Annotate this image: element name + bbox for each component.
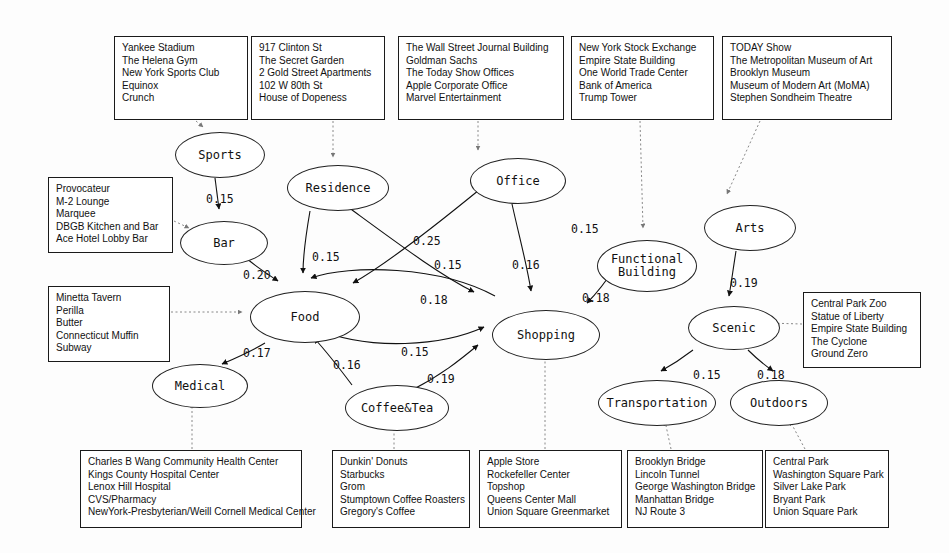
node-label: Scenic <box>712 322 755 335</box>
edge-weight-scenic-outdoors: 0.18 <box>757 368 785 382</box>
venue-box-scenic: Central Park ZooStatue of LibertyEmpire … <box>803 292 921 368</box>
node-residence[interactable]: Residence <box>287 165 389 211</box>
node-label: Transportation <box>606 397 707 410</box>
venue-item: 102 W 80th St <box>259 80 378 93</box>
edge-weight-functional-shopping: 0.18 <box>582 291 610 305</box>
edge-weight-office-food: 0.25 <box>413 234 441 248</box>
edge-weight-food-medical: 0.17 <box>243 346 271 360</box>
venue-item: Lincoln Tunnel <box>635 469 756 482</box>
venue-item: Charles B Wang Community Health Center <box>88 456 295 469</box>
venue-item: Grom <box>340 481 463 494</box>
node-bar[interactable]: Bar <box>180 221 268 265</box>
venue-box-arts: TODAY ShowThe Metropolitan Museum of Art… <box>722 36 892 120</box>
node-scenic[interactable]: Scenic <box>688 306 780 350</box>
venue-box-bar: ProvocateurM-2 LoungeMarqueeDBGB Kitchen… <box>48 177 173 253</box>
node-medical[interactable]: Medical <box>152 364 248 408</box>
node-transport[interactable]: Transportation <box>598 380 716 426</box>
venue-item: Empire State Building <box>811 323 914 336</box>
venue-item: Crunch <box>122 92 241 105</box>
edge-residence-shopping <box>348 207 474 292</box>
venue-item: Rockefeller Center <box>487 469 615 482</box>
venue-box-coffee: Dunkin' DonutsStarbucksGromStumptown Cof… <box>332 450 470 528</box>
node-label: Office <box>496 175 539 188</box>
link-arts-venues <box>727 121 760 194</box>
venue-item: Goldman Sachs <box>406 55 557 68</box>
edge-weight-scenic-transport: 0.15 <box>693 368 721 382</box>
node-office[interactable]: Office <box>470 158 566 204</box>
venue-box-transport: Brooklyn BridgeLincoln TunnelGeorge Wash… <box>627 450 763 528</box>
venue-item: Trump Tower <box>579 92 707 105</box>
venue-item: The Wall Street Journal Building <box>406 42 557 55</box>
node-label: Bar <box>213 237 235 250</box>
venue-box-office: The Wall Street Journal BuildingGoldman … <box>398 36 564 120</box>
node-outdoors[interactable]: Outdoors <box>730 380 828 426</box>
venue-item: Kings County Hospital Center <box>88 469 295 482</box>
venue-item: Empire State Building <box>579 55 707 68</box>
venue-item: One World Trade Center <box>579 67 707 80</box>
venue-item: CVS/Pharmacy <box>88 494 295 507</box>
venue-item: Perilla <box>56 305 163 318</box>
venue-item: Provocateur <box>56 183 166 196</box>
link-sports-venues <box>196 121 203 127</box>
venue-item: Statue of Liberty <box>811 311 914 324</box>
edge-weight-sports-bar: 0.15 <box>206 192 234 206</box>
venue-item: New York Stock Exchange <box>579 42 707 55</box>
venue-item: Queens Center Mall <box>487 494 615 507</box>
venue-item: 2 Gold Street Apartments <box>259 67 378 80</box>
venue-item: The Helena Gym <box>122 55 241 68</box>
venue-item: Stumptown Coffee Roasters <box>340 494 463 507</box>
venue-item: Stephen Sondheim Theatre <box>730 92 885 105</box>
edge-weight-arts-scenic: 0.19 <box>730 276 758 290</box>
node-label: Shopping <box>517 329 575 342</box>
venue-item: Butter <box>56 317 163 330</box>
edge-office-shopping <box>512 204 531 291</box>
venue-item: M-2 Lounge <box>56 196 166 209</box>
node-shopping[interactable]: Shopping <box>492 310 600 360</box>
edge-residence-food <box>303 211 310 273</box>
venue-item: NewYork-Presbyterian/Weill Cornell Medic… <box>88 506 295 519</box>
venue-item: Union Square Park <box>773 506 882 519</box>
edge-weight-food-shopping: 0.15 <box>401 345 429 359</box>
venue-item: Apple Store <box>487 456 615 469</box>
venue-box-medical: Charles B Wang Community Health CenterKi… <box>80 450 302 528</box>
venue-item: Starbucks <box>340 469 463 482</box>
venue-box-sports: Yankee StadiumThe Helena GymNew York Spo… <box>114 36 248 120</box>
venue-item: Ace Hotel Lobby Bar <box>56 233 166 246</box>
edge-weight-coffee-shopping: 0.19 <box>427 372 455 386</box>
venue-box-shopping: Apple StoreRockefeller CenterTopshopQuee… <box>479 450 622 528</box>
venue-item: Silver Lake Park <box>773 481 882 494</box>
node-label: Medical <box>175 380 226 393</box>
node-coffee[interactable]: Coffee&Tea <box>345 385 449 431</box>
node-arts[interactable]: Arts <box>704 205 796 251</box>
node-label: Food <box>291 311 320 324</box>
venue-item: New York Sports Club <box>122 67 241 80</box>
venue-item: Equinox <box>122 80 241 93</box>
venue-box-food: Minetta TavernPerillaButterConnecticut M… <box>48 286 170 362</box>
venue-item: Subway <box>56 342 163 355</box>
venue-item: The Secret Garden <box>259 55 378 68</box>
node-functional[interactable]: Functional Building <box>597 240 697 292</box>
venue-item: Central Park Zoo <box>811 298 914 311</box>
venue-item: Central Park <box>773 456 882 469</box>
venue-item: Brooklyn Bridge <box>635 456 756 469</box>
node-food[interactable]: Food <box>250 291 360 343</box>
link-bar-venues <box>174 221 189 228</box>
node-label: Outdoors <box>750 397 808 410</box>
venue-item: TODAY Show <box>730 42 885 55</box>
venue-item: Minetta Tavern <box>56 292 163 305</box>
edge-scenic-transport <box>661 350 693 371</box>
venue-item: DBGB Kitchen and Bar <box>56 221 166 234</box>
node-sports[interactable]: Sports <box>175 132 265 178</box>
venue-item: NJ Route 3 <box>635 506 756 519</box>
venue-item: House of Dopeness <box>259 92 378 105</box>
venue-item: Lenox Hill Hospital <box>88 481 295 494</box>
edge-weight-shopping-food: 0.18 <box>420 293 448 307</box>
venue-item: George Washington Bridge <box>635 481 756 494</box>
node-label: Arts <box>736 222 765 235</box>
venue-item: Union Square Greenmarket <box>487 506 615 519</box>
node-label: Coffee&Tea <box>361 402 433 415</box>
edge-weight-office-functional: 0.15 <box>571 222 599 236</box>
venue-item: Marquee <box>56 208 166 221</box>
venue-item: Bryant Park <box>773 494 882 507</box>
venue-item: Yankee Stadium <box>122 42 241 55</box>
